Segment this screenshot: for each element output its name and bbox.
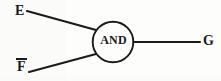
input-line-e [27,11,96,30]
output-label-g: G [203,34,214,48]
input-label-f: F [17,58,26,74]
overbar-group: F [17,58,26,74]
output-label-g-text: G [203,33,214,48]
logic-gate-diagram: AND E F G [0,0,221,81]
and-gate-label: AND [93,34,134,46]
overbar-icon [16,58,27,60]
input-label-e-text: E [15,3,24,18]
input-label-e: E [15,4,24,18]
input-line-f [29,54,96,72]
input-label-f-text: F [17,59,26,74]
